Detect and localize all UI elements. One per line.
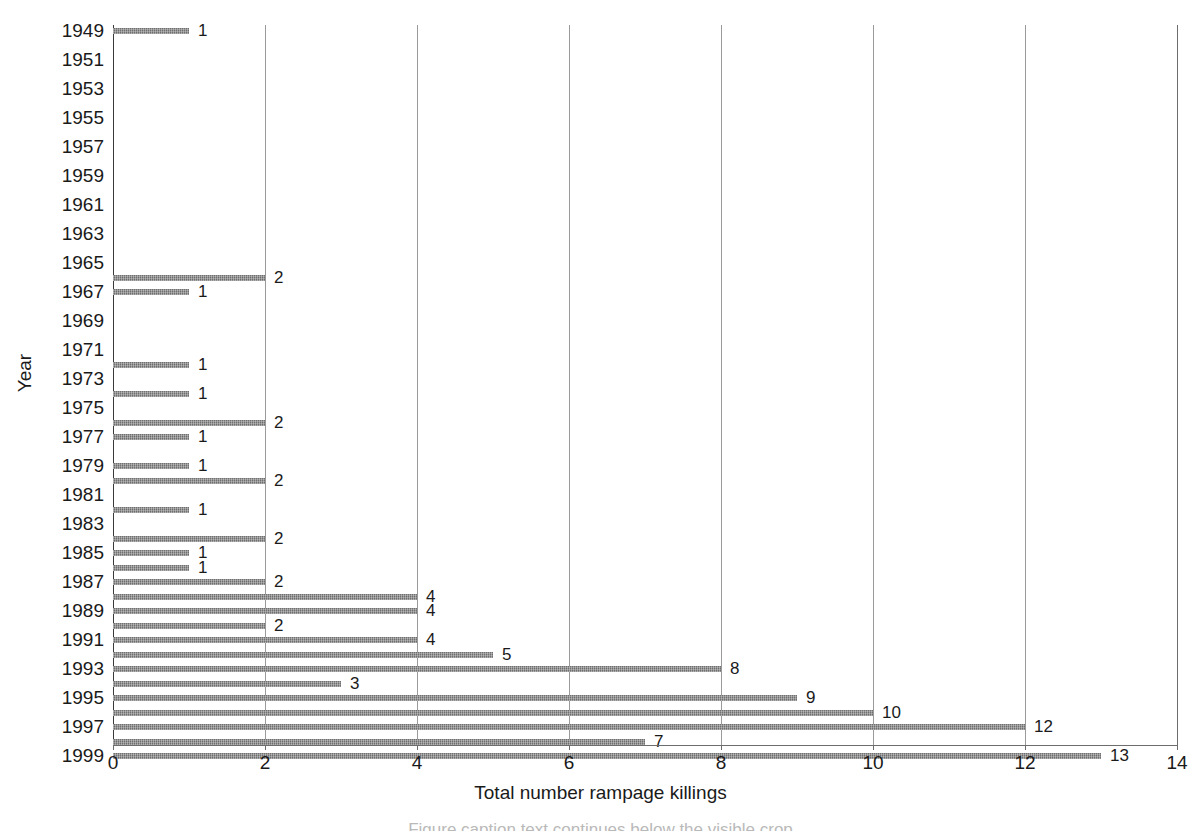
bar-row	[113, 185, 1177, 200]
bar[interactable]	[113, 608, 417, 614]
bar-row	[113, 301, 1177, 316]
x-tick-mark-2	[265, 745, 266, 750]
bar-row	[113, 446, 1177, 461]
bar[interactable]	[113, 623, 265, 629]
bar-row: 4	[113, 634, 1177, 649]
bar-row	[113, 243, 1177, 258]
bar-value-label: 1	[198, 22, 207, 39]
rampage-killings-bar-chart: Year 19491951195319551957195919611963196…	[0, 0, 1201, 831]
bar[interactable]	[113, 724, 1025, 730]
bar[interactable]	[113, 579, 265, 585]
bar[interactable]	[113, 739, 645, 745]
x-tick-label-8: 8	[716, 752, 727, 774]
y-tick-label-1989: 1989	[46, 601, 104, 620]
bar-value-label: 1	[198, 283, 207, 300]
x-axis-title: Total number rampage killings	[0, 782, 1201, 804]
bar-row: 2	[113, 533, 1177, 548]
bar[interactable]	[113, 289, 189, 295]
bar[interactable]	[113, 28, 189, 34]
x-axis-tick-labels: 02468101214	[0, 752, 1201, 778]
bar[interactable]	[113, 434, 189, 440]
bar-value-label: 7	[654, 733, 663, 750]
bar-value-label: 4	[426, 631, 435, 648]
bar-row: 1	[113, 286, 1177, 301]
y-tick-label-1955: 1955	[46, 108, 104, 127]
bar-row: 1	[113, 562, 1177, 577]
bar-value-label: 5	[502, 646, 511, 663]
y-tick-label-1949: 1949	[46, 21, 104, 40]
x-tick-label-4: 4	[412, 752, 423, 774]
y-tick-label-1953: 1953	[46, 79, 104, 98]
bar[interactable]	[113, 710, 873, 716]
bar-row: 3	[113, 678, 1177, 693]
bar-row: 1	[113, 388, 1177, 403]
bar-row: 1	[113, 431, 1177, 446]
bar-value-label: 2	[274, 617, 283, 634]
bar[interactable]	[113, 463, 189, 469]
bar-value-label: 1	[198, 356, 207, 373]
y-tick-label-1977: 1977	[46, 427, 104, 446]
y-tick-label-1965: 1965	[46, 253, 104, 272]
bar-row: 2	[113, 417, 1177, 432]
bar[interactable]	[113, 637, 417, 643]
bar[interactable]	[113, 594, 417, 600]
y-tick-label-1961: 1961	[46, 195, 104, 214]
bar[interactable]	[113, 275, 265, 281]
x-tick-mark-0	[113, 745, 114, 750]
bar[interactable]	[113, 362, 189, 368]
bar-value-label: 1	[198, 428, 207, 445]
bar-value-label: 1	[198, 501, 207, 518]
clipped-caption: Figure caption text continues below the …	[0, 820, 1201, 831]
x-tick-label-0: 0	[108, 752, 119, 774]
y-tick-label-1987: 1987	[46, 572, 104, 591]
bar-row	[113, 127, 1177, 142]
x-tick-mark-4	[417, 745, 418, 750]
bar[interactable]	[113, 550, 189, 556]
bar-value-label: 3	[350, 675, 359, 692]
bar[interactable]	[113, 536, 265, 542]
bar[interactable]	[113, 507, 189, 513]
bar-row	[113, 518, 1177, 533]
y-tick-label-1969: 1969	[46, 311, 104, 330]
bar-row: 2	[113, 475, 1177, 490]
bar-value-label: 1	[198, 559, 207, 576]
bar-row	[113, 489, 1177, 504]
bar[interactable]	[113, 565, 189, 571]
y-tick-label-1967: 1967	[46, 282, 104, 301]
x-tick-mark-8	[721, 745, 722, 750]
bar-row	[113, 156, 1177, 171]
bar-row: 5	[113, 649, 1177, 664]
bar-row: 4	[113, 591, 1177, 606]
bar-row: 9	[113, 692, 1177, 707]
bar-row	[113, 214, 1177, 229]
bar-row	[113, 330, 1177, 345]
bar-value-label: 2	[274, 472, 283, 489]
bar[interactable]	[113, 391, 189, 397]
bar[interactable]	[113, 681, 341, 687]
bar-row: 1	[113, 460, 1177, 475]
bar-row	[113, 344, 1177, 359]
bar-row	[113, 228, 1177, 243]
bar-row: 1	[113, 547, 1177, 562]
bar-row: 2	[113, 620, 1177, 635]
bar-row	[113, 54, 1177, 69]
bar-row	[113, 141, 1177, 156]
bar-row: 8	[113, 663, 1177, 678]
y-tick-label-1973: 1973	[46, 369, 104, 388]
bar-row	[113, 69, 1177, 84]
bar-value-label: 1	[198, 385, 207, 402]
bar[interactable]	[113, 478, 265, 484]
bar[interactable]	[113, 695, 797, 701]
x-tick-label-14: 14	[1166, 752, 1187, 774]
bar-value-label: 10	[882, 704, 901, 721]
y-tick-label-1985: 1985	[46, 543, 104, 562]
y-tick-label-1951: 1951	[46, 50, 104, 69]
x-tick-label-6: 6	[564, 752, 575, 774]
y-tick-label-1981: 1981	[46, 485, 104, 504]
bar-row	[113, 112, 1177, 127]
bar[interactable]	[113, 420, 265, 426]
y-tick-label-1997: 1997	[46, 717, 104, 736]
bar[interactable]	[113, 652, 493, 658]
bar[interactable]	[113, 666, 721, 672]
y-tick-label-1957: 1957	[46, 137, 104, 156]
